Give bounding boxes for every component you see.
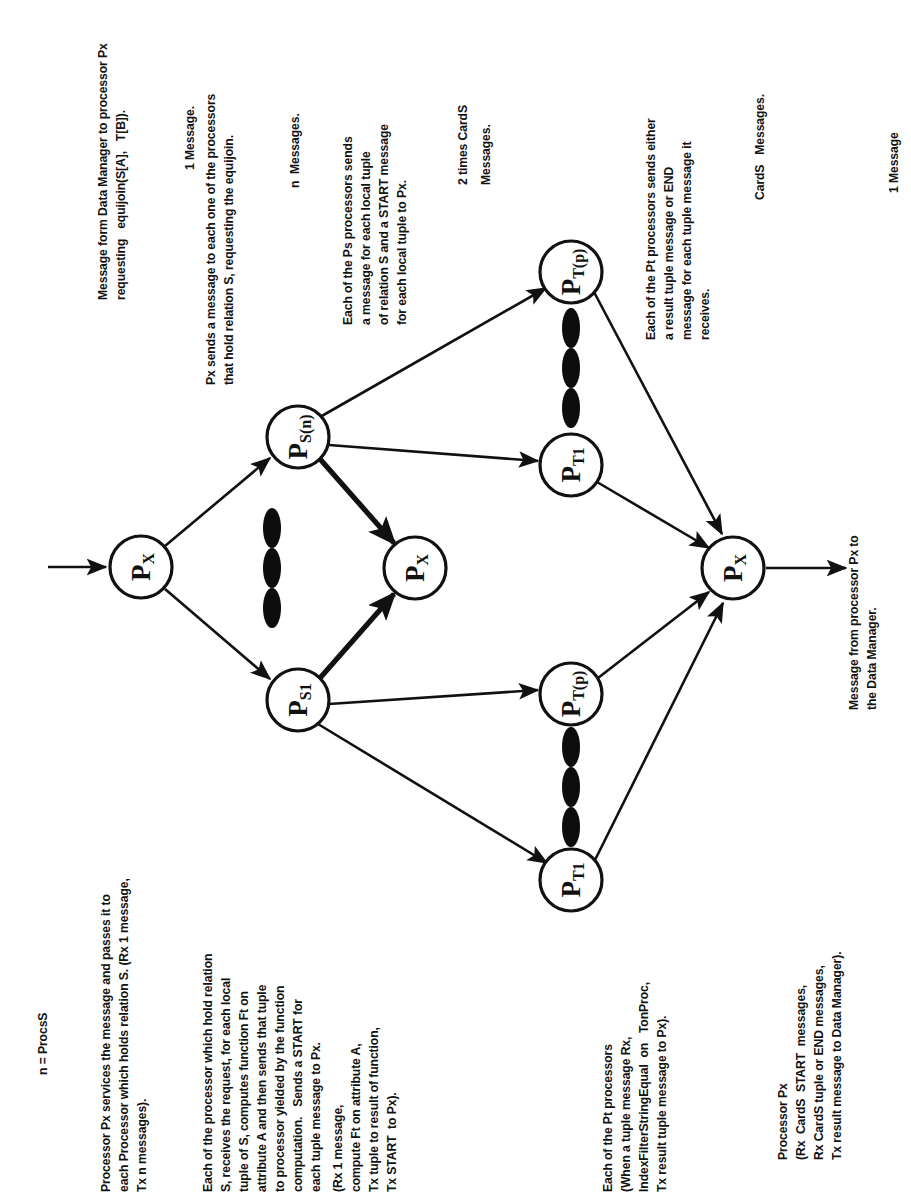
edge-pt1-top-to-pxout xyxy=(597,482,709,548)
ellipsis-dot xyxy=(263,508,281,548)
edge-pxin-to-psn xyxy=(165,458,270,546)
ellipsis-dot xyxy=(562,308,580,348)
annotation-px-sends-line1: Px sends a message to each one of the pr… xyxy=(203,94,221,385)
annotation-ps-detail-line1: Each of the processor which hold relatio… xyxy=(200,954,218,1192)
annotation-ps-detail-line5: to processor yielded by the function xyxy=(272,986,290,1192)
annotation-px-collect-line2: (Rx CardS START messages, xyxy=(793,985,811,1160)
ellipsis-dot xyxy=(562,767,580,807)
annotation-pt-detail-line4: Tx result tuple message to Px). xyxy=(654,1016,672,1192)
annotation-ps-sends-line3: of relation S and a START message xyxy=(376,124,394,325)
annotation-px-services-line2: each Processor which holds relation S. (… xyxy=(116,878,134,1192)
annotation-ps-sends-count: 2 times CardS xyxy=(455,105,473,185)
ellipsis-dot xyxy=(562,388,580,428)
annotation-ps-detail-line10: Tx tuple to result of function, xyxy=(366,1027,384,1192)
ellipsis-dot xyxy=(562,807,580,847)
ellipsis-dot xyxy=(263,588,281,628)
graph-node-pt-1-bot: PT1 xyxy=(540,849,602,911)
edge-psn-to-pt1-top xyxy=(329,445,538,461)
graph-node-pt-p-bot: PT(p) xyxy=(540,663,602,725)
annotation-msg-from-dm-line1: Message form Data Manager to processor P… xyxy=(95,43,113,300)
edge-ps1-to-pxmid xyxy=(320,594,394,678)
annotation-px-collect-line1: Processor Px xyxy=(775,1083,793,1160)
ellipsis-dot xyxy=(562,348,580,388)
annotation-pt-sends-line2: a result tuple message or END xyxy=(661,167,679,340)
annotation-ps-sends-line2: a message for each local tuple xyxy=(358,151,376,325)
annotation-px-services-line1: Processor Px services the message and pa… xyxy=(98,894,116,1192)
graph-node-px-out: PX xyxy=(702,537,764,599)
annotation-ps-detail-line7: each tuple message to Px. xyxy=(308,1042,326,1192)
annotation-msg-from-dm-count: 1 Message. xyxy=(182,106,200,170)
annotation-px-collect-line4: Tx result message to Data Manager). xyxy=(829,952,847,1161)
annotation-msg-from-dm-line2: requesting equijoin(S[A], T[B]). xyxy=(113,110,131,300)
annotation-ps-detail-line4: attribute A and then sends that tuple xyxy=(254,985,272,1192)
edge-ps1-to-ptp-bot xyxy=(329,690,538,704)
annotation-pt-detail-line3: IndexFilterStringEqual on TonProc, xyxy=(636,982,654,1192)
annotation-px-services-line3: Tx n messages). xyxy=(134,1099,152,1192)
edge-pxin-to-ps1 xyxy=(165,589,270,679)
annotation-px-sends-line2: that hold relation S, requesting the equ… xyxy=(221,135,239,385)
annotation-ps-detail-line3: tuple of S, computes function Ft on xyxy=(236,991,254,1192)
annotation-pt-detail-line2: (When a tuple message Rx, xyxy=(618,1037,636,1192)
annotation-px-collect-line3: Rx CardS tuple or END messages, xyxy=(811,965,829,1160)
graph-node-pt-1-top: PT1 xyxy=(540,434,602,496)
annotation-ps-detail-line2: S, receives the request, for each local xyxy=(218,978,236,1192)
edge-label-to-dm-line1: Message from processor Px to xyxy=(846,535,864,710)
graph-node-px-in: PX xyxy=(110,536,172,598)
edge-label-to-dm-line2: the Data Manager. xyxy=(864,607,882,710)
annotation-pt-detail-line1: Each of the Pt processors xyxy=(600,1044,618,1192)
ellipsis-dots xyxy=(263,508,281,628)
annotation-ps-detail-line11: Tx START to Px). xyxy=(384,1092,402,1192)
annotation-ps-sends-line1: Each of the Ps processors sends xyxy=(340,136,358,325)
ellipsis-dots xyxy=(562,308,580,428)
annotation-ps-detail-line9: compute Ft on attribute A, xyxy=(348,1043,366,1192)
edge-pt1-bot-to-pxout xyxy=(595,603,723,860)
ellipsis-dot xyxy=(263,548,281,588)
ellipsis-dots xyxy=(562,727,580,847)
annotation-msg-to-dm-count: 1 Message xyxy=(886,132,904,193)
annotation-ps-sends-count2: Messages. xyxy=(478,124,496,185)
graph-node-pt-p-top: PT(p) xyxy=(540,241,602,303)
ellipsis-dot xyxy=(562,727,580,767)
annotation-pt-sends-line3: message for each tuple message it xyxy=(679,141,697,340)
edge-psn-to-pxmid xyxy=(320,459,394,543)
annotation-pt-sends-count: CardS Messages. xyxy=(752,94,770,200)
graph-node-ps-n: PS(n) xyxy=(267,406,329,468)
annotation-ps-sends-line4: for each local tuple to Px. xyxy=(394,180,412,325)
graph-node-px-mid: PX xyxy=(384,537,446,599)
annotation-pt-sends-line4: receives. xyxy=(697,289,715,340)
annotation-px-sends-count: n Messages. xyxy=(287,113,305,188)
figure-page: PXPS(n)PS1PXPT(p)PT1PT(p)PT1PX Message f… xyxy=(0,0,911,1203)
edge-ps1-to-pt1-bot xyxy=(318,724,547,863)
legend-n-equals-procss: n = ProcsS xyxy=(35,1013,53,1075)
annotation-ps-detail-line6: computation. Sends a START for xyxy=(290,999,308,1192)
annotation-pt-sends-line1: Each of the Pt processors sends either xyxy=(643,118,661,340)
annotation-ps-detail-line8: (Rx 1 message, xyxy=(330,1105,348,1192)
graph-node-ps-1: PS1 xyxy=(267,669,329,731)
